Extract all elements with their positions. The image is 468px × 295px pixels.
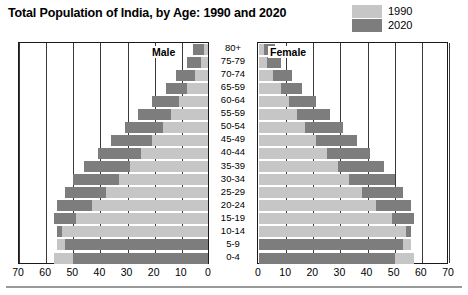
x-axis: 706050403020100010203040506070 bbox=[0, 266, 468, 282]
bar-row bbox=[259, 108, 449, 120]
bar-1990 bbox=[130, 161, 209, 172]
bar-1990 bbox=[187, 83, 209, 94]
bar-1990 bbox=[259, 213, 392, 224]
bar-1990 bbox=[152, 135, 209, 146]
bar-row bbox=[259, 187, 449, 199]
age-group-label: 75-79 bbox=[209, 55, 257, 67]
legend-label-2020: 2020 bbox=[388, 19, 412, 32]
x-tick-label: 60 bbox=[415, 266, 427, 278]
age-group-label: 80+ bbox=[209, 42, 257, 54]
chart-title: Total Population of India, by Age: 1990 … bbox=[8, 6, 286, 20]
bar-row bbox=[19, 252, 209, 264]
male-bar-rows bbox=[19, 43, 209, 263]
legend-label-1990: 1990 bbox=[388, 5, 412, 18]
bar-row bbox=[19, 187, 209, 199]
bar-row bbox=[259, 95, 449, 107]
bar-1990 bbox=[62, 226, 209, 237]
age-group-label: 40-44 bbox=[209, 146, 257, 158]
x-tick-label: 40 bbox=[361, 266, 373, 278]
bar-1990 bbox=[119, 174, 209, 185]
x-tick-label: 30 bbox=[334, 266, 346, 278]
bar-2020 bbox=[259, 239, 403, 250]
x-tick-label: 50 bbox=[66, 266, 78, 278]
bar-row bbox=[19, 43, 209, 55]
bar-row bbox=[19, 239, 209, 251]
bar-1990 bbox=[259, 70, 273, 81]
chart-legend: 1990 2020 bbox=[352, 4, 464, 34]
female-caption: Female bbox=[268, 46, 308, 58]
bar-1990 bbox=[259, 83, 281, 94]
bar-row bbox=[259, 147, 449, 159]
bar-1990 bbox=[259, 57, 267, 68]
female-pane bbox=[259, 43, 449, 263]
age-group-label: 20-24 bbox=[209, 199, 257, 211]
bar-1990 bbox=[259, 135, 316, 146]
bar-row bbox=[259, 174, 449, 186]
age-group-label: 70-74 bbox=[209, 68, 257, 80]
bar-1990 bbox=[259, 96, 289, 107]
x-tick-label: 60 bbox=[39, 266, 51, 278]
bar-1990 bbox=[259, 109, 297, 120]
bar-row bbox=[259, 69, 449, 81]
bar-1990 bbox=[259, 187, 362, 198]
age-group-label: 10-14 bbox=[209, 225, 257, 237]
bar-row bbox=[19, 161, 209, 173]
male-caption: Male bbox=[150, 46, 177, 58]
legend-item-1990: 1990 bbox=[352, 5, 412, 18]
x-tick-label: 50 bbox=[388, 266, 400, 278]
bar-row bbox=[259, 239, 449, 251]
bar-row bbox=[19, 82, 209, 94]
bar-row bbox=[259, 121, 449, 133]
bar-row bbox=[259, 213, 449, 225]
age-group-label: 60-64 bbox=[209, 94, 257, 106]
x-tick-label: 0 bbox=[255, 266, 261, 278]
bar-row bbox=[259, 200, 449, 212]
gridline bbox=[449, 43, 450, 263]
population-pyramid-chart: Total Population of India, by Age: 1990 … bbox=[0, 0, 468, 295]
legend-swatch-2020-icon bbox=[352, 19, 382, 32]
bar-1990 bbox=[259, 161, 338, 172]
age-group-label: 35-39 bbox=[209, 160, 257, 172]
bar-1990 bbox=[259, 226, 406, 237]
x-tick-label: 70 bbox=[442, 266, 454, 278]
bar-row bbox=[19, 147, 209, 159]
x-tick-label: 10 bbox=[175, 266, 187, 278]
male-pane bbox=[19, 43, 209, 263]
age-group-label: 5-9 bbox=[209, 238, 257, 250]
bar-row bbox=[259, 134, 449, 146]
age-group-label: 45-49 bbox=[209, 133, 257, 145]
age-group-label: 0-4 bbox=[209, 251, 257, 263]
age-group-label: 50-54 bbox=[209, 120, 257, 132]
bar-row bbox=[259, 161, 449, 173]
footer-rule bbox=[6, 286, 462, 288]
x-tick-label: 0 bbox=[205, 266, 211, 278]
bar-row bbox=[19, 226, 209, 238]
x-tick-label: 70 bbox=[12, 266, 24, 278]
age-group-axis: 80+75-7970-7465-5960-6455-5950-5445-4940… bbox=[208, 42, 258, 264]
legend-swatch-1990-icon bbox=[352, 5, 382, 18]
bar-1990 bbox=[259, 44, 264, 55]
bar-2020 bbox=[65, 239, 209, 250]
bar-2020 bbox=[73, 253, 209, 264]
age-group-label: 55-59 bbox=[209, 107, 257, 119]
age-group-label: 65-59 bbox=[209, 81, 257, 93]
bar-1990 bbox=[76, 213, 209, 224]
x-tick-label: 20 bbox=[148, 266, 160, 278]
bar-2020 bbox=[259, 253, 395, 264]
age-group-label: 30-34 bbox=[209, 173, 257, 185]
bar-row bbox=[19, 108, 209, 120]
bar-row bbox=[19, 134, 209, 146]
bar-row bbox=[19, 56, 209, 68]
bar-1990 bbox=[92, 200, 209, 211]
bar-1990 bbox=[259, 148, 327, 159]
bar-row bbox=[259, 82, 449, 94]
bar-1990 bbox=[106, 187, 209, 198]
bar-row bbox=[259, 252, 449, 264]
legend-item-2020: 2020 bbox=[352, 19, 412, 32]
x-tick-label: 20 bbox=[306, 266, 318, 278]
bar-1990 bbox=[163, 122, 209, 133]
bar-row bbox=[19, 213, 209, 225]
age-group-label: 25-29 bbox=[209, 186, 257, 198]
bar-1990 bbox=[259, 122, 305, 133]
x-tick-label: 40 bbox=[94, 266, 106, 278]
